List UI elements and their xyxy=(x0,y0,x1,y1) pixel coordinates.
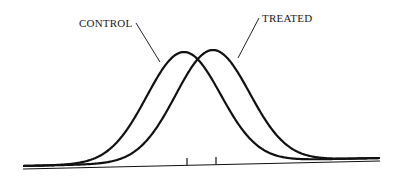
treated-curve xyxy=(23,50,380,166)
treated-label: TREATED xyxy=(262,12,312,24)
distribution-chart: CONTROL TREATED xyxy=(0,0,399,179)
treated-leader-line xyxy=(238,18,259,58)
control-label: CONTROL xyxy=(79,17,132,29)
control-leader-line xyxy=(136,23,160,62)
control-curve xyxy=(23,52,380,166)
